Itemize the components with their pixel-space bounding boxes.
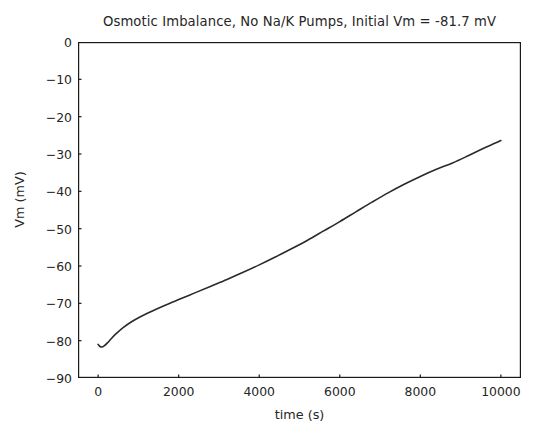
y-tick-label: −60 xyxy=(28,259,72,274)
y-tick-label: −50 xyxy=(28,221,72,236)
data-line-vm xyxy=(98,141,501,347)
plot-area xyxy=(78,42,521,378)
y-tick-label: −40 xyxy=(28,184,72,199)
y-tick-label: −20 xyxy=(28,109,72,124)
y-axis-tick-labels: 0−10−20−30−40−50−60−70−80−90 xyxy=(22,42,72,378)
y-tick-label: −30 xyxy=(28,147,72,162)
x-tick-label: 10000 xyxy=(481,384,520,399)
x-tick-label: 6000 xyxy=(324,384,356,399)
y-tick-label: −70 xyxy=(28,296,72,311)
y-tick-label: 0 xyxy=(28,35,72,50)
x-axis-label: time (s) xyxy=(78,407,521,422)
x-tick-label: 4000 xyxy=(243,384,275,399)
x-axis-tick-labels: 0200040006000800010000 xyxy=(78,384,521,402)
y-tick-label: −80 xyxy=(28,333,72,348)
y-tick-label: −90 xyxy=(28,371,72,386)
x-tick-label: 0 xyxy=(94,384,102,399)
tick-marks xyxy=(78,42,501,378)
chart-title: Osmotic Imbalance, No Na/K Pumps, Initia… xyxy=(78,14,521,29)
plot-svg xyxy=(78,42,521,378)
chart-figure: Osmotic Imbalance, No Na/K Pumps, Initia… xyxy=(0,0,552,441)
x-tick-label: 8000 xyxy=(405,384,437,399)
axes-frame xyxy=(79,43,521,378)
y-tick-label: −10 xyxy=(28,72,72,87)
x-tick-label: 2000 xyxy=(163,384,195,399)
